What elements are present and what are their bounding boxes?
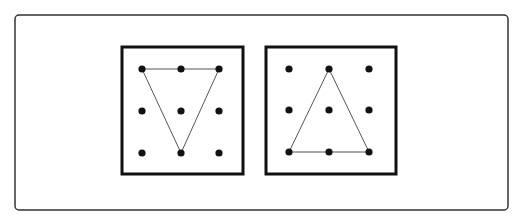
grid-dot — [325, 148, 332, 155]
right-geoboard — [266, 47, 396, 174]
grid-dot — [138, 107, 145, 114]
grid-dot — [138, 149, 145, 156]
grid-dot — [285, 106, 292, 113]
grid-dot — [365, 106, 372, 113]
grid-dot — [215, 107, 222, 114]
grid-dot — [177, 65, 184, 72]
grid-dot — [215, 149, 222, 156]
left-geoboard — [122, 47, 243, 174]
grid-dot — [365, 65, 372, 72]
grid-dot — [215, 65, 222, 72]
grid-dot — [177, 149, 184, 156]
grid-dot — [365, 148, 372, 155]
outer-frame — [15, 15, 508, 210]
diagram-canvas — [0, 0, 524, 223]
grid-dot — [285, 148, 292, 155]
grid-dot — [177, 107, 184, 114]
grid-dot — [285, 65, 292, 72]
grid-dot — [325, 65, 332, 72]
grid-dot — [138, 65, 145, 72]
grid-dot — [325, 106, 332, 113]
